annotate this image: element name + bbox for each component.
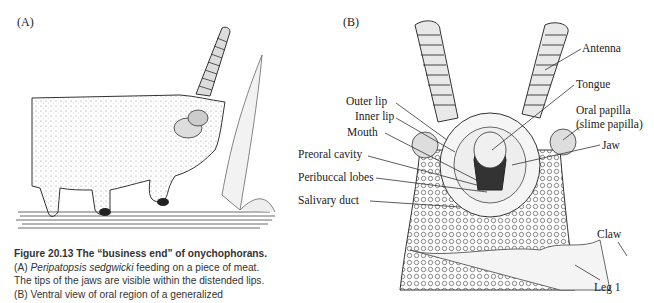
panel-b-label: (B) (343, 15, 359, 30)
label-salivary-duct: Salivary duct (298, 194, 359, 206)
oral-region-ventral-view (400, 21, 610, 290)
caption-a-rest: feeding on a piece of meat. (133, 262, 259, 273)
label-antenna: Antenna (582, 42, 621, 54)
label-leg-1: Leg 1 (594, 281, 621, 293)
onychophoran-side-view (16, 27, 275, 228)
label-outer-lip: Outer lip (346, 95, 387, 107)
label-preoral-cavity: Preoral cavity (298, 148, 362, 160)
label-inner-lip: Inner lip (355, 110, 394, 122)
label-mouth: Mouth (347, 126, 378, 138)
caption-line-a: (A) Peripatopsis sedgwicki feeding on a … (14, 261, 344, 275)
label-claw: Claw (597, 228, 621, 240)
label-oral-papilla: Oral papilla (576, 104, 631, 116)
caption-line-2: The tips of the jaws are visible within … (14, 274, 344, 288)
figure-caption: Figure 20.13 The “business end” of onych… (14, 247, 344, 301)
caption-line-3: (B) Ventral view of oral region of a gen… (14, 288, 344, 302)
label-slime-papilla: (slime papilla) (576, 118, 643, 130)
panel-a-label: (A) (17, 15, 34, 30)
label-jaw: Jaw (602, 139, 620, 151)
label-tongue: Tongue (576, 78, 610, 90)
caption-species-name: Peripatopsis sedgwicki (30, 262, 133, 273)
caption-a-prefix: (A) (14, 262, 30, 273)
caption-title: Figure 20.13 The “business end” of onych… (14, 247, 344, 261)
label-peribuccal-lobes: Peribuccal lobes (298, 171, 374, 183)
